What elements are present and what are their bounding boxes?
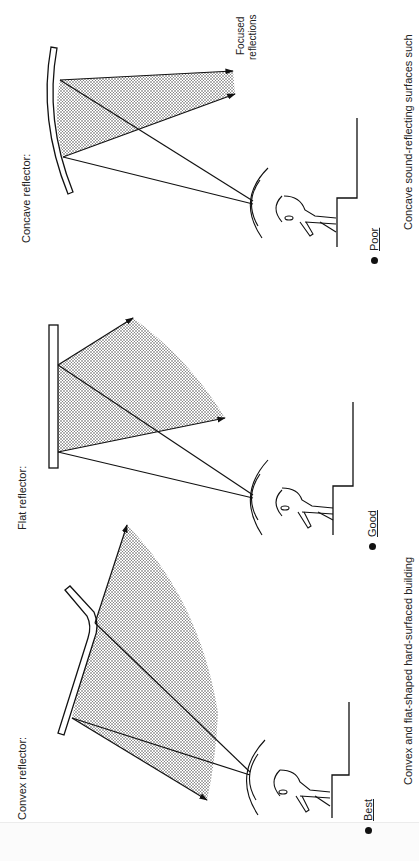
rating-label: Best — [362, 799, 374, 821]
flat-reflection-shading — [58, 318, 225, 452]
bullet-icon — [365, 827, 372, 834]
convex-platform — [332, 702, 349, 818]
concave-reflector-label: Concave reflector: — [20, 154, 32, 243]
convex-reflector-label: Convex reflector: — [16, 737, 28, 820]
flat-reflector — [49, 325, 58, 468]
svg-text:reflections: reflections — [247, 14, 258, 60]
focused-reflections-label: Focused reflections — [235, 14, 258, 60]
caption-convex-flat: Convex and flat-shaped hard-surfaced bui… — [402, 557, 414, 785]
rating-label: Good — [366, 510, 378, 537]
rating-good: Good — [366, 510, 378, 550]
convex-panel — [58, 525, 349, 818]
concave-incident-ray-lower — [63, 157, 253, 204]
svg-text:Focused: Focused — [235, 17, 246, 55]
concave-speaker-figure — [250, 118, 357, 247]
rating-poor: Poor — [368, 228, 380, 264]
bullet-icon — [371, 257, 378, 264]
rating-label: Poor — [368, 228, 380, 251]
rating-best: Best — [362, 799, 374, 834]
sound-wave-icon — [250, 168, 268, 238]
flat-platform — [333, 402, 353, 535]
flat-reflector-label: Flat reflector: — [16, 466, 28, 530]
concave-reflection-shading — [57, 71, 235, 157]
convex-speaker-figure — [247, 702, 349, 818]
concave-panel: Focused reflections — [47, 14, 357, 247]
caption-concave: Concave sound-reflecting surfaces such — [402, 34, 414, 230]
flat-panel — [49, 318, 353, 535]
flat-speaker-figure — [250, 402, 353, 535]
convex-reflection-shading — [72, 525, 218, 800]
concave-platform — [337, 118, 357, 247]
bullet-icon — [369, 543, 376, 550]
